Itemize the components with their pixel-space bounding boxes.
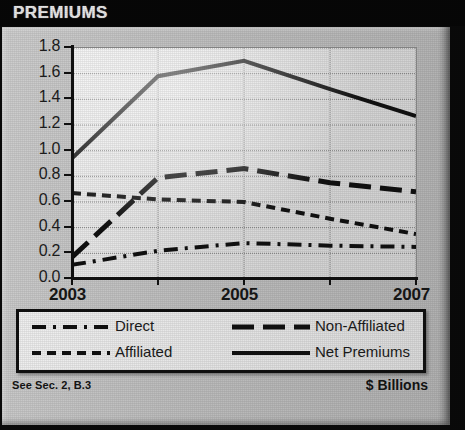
panel-shadow [438, 27, 450, 425]
legend-label: Direct [115, 317, 154, 334]
x-axis-tick [157, 278, 159, 285]
x-axis-label: 2007 [393, 285, 430, 305]
y-axis-tick [64, 174, 72, 176]
y-axis-label: 1.8 [14, 37, 60, 55]
y-axis-label: 1.6 [14, 63, 60, 81]
y-axis-tick [64, 251, 72, 253]
y-axis-label: 0.4 [14, 217, 60, 235]
y-axis-label: 0.0 [14, 268, 60, 286]
legend-label: Net Premiums [315, 343, 410, 360]
series-line-net-premiums [72, 61, 416, 159]
y-axis-label: 0.6 [14, 191, 60, 209]
legend: DirectNon-AffiliatedAffiliatedNet Premiu… [16, 309, 426, 373]
chart-screenshot: PREMIUMS 0.00.20.40.60.81.01.21.41.61.82… [0, 0, 465, 430]
y-axis-tick [64, 97, 72, 99]
x-axis-tick [329, 278, 331, 285]
chart-panel: 0.00.20.40.60.81.01.21.41.61.82003200520… [2, 27, 450, 425]
x-axis-tick [415, 278, 417, 285]
y-axis-tick [64, 46, 72, 48]
y-axis-tick [64, 226, 72, 228]
y-axis-label: 1.0 [14, 140, 60, 158]
legend-swatch-non-affiliated [231, 323, 311, 331]
y-axis-label: 1.2 [14, 114, 60, 132]
x-axis-tick [71, 278, 73, 285]
plot-area [72, 47, 417, 279]
legend-swatch-affiliated [31, 349, 111, 357]
x-axis-label: 2003 [49, 285, 86, 305]
title-bar: PREMIUMS [0, 0, 465, 26]
y-axis-label: 0.2 [14, 242, 60, 260]
chart-canvas [72, 48, 416, 279]
y-axis-line [71, 45, 74, 280]
plot-frame: 0.00.20.40.60.81.01.21.41.61.82003200520… [14, 39, 430, 301]
y-axis-tick [64, 149, 72, 151]
legend-label: Non-Affiliated [315, 317, 405, 334]
y-axis-label: 1.4 [14, 88, 60, 106]
x-axis-tick [243, 278, 245, 285]
legend-swatch-direct [31, 323, 111, 331]
y-axis-tick [64, 72, 72, 74]
legend-swatch-net-premiums [231, 349, 311, 357]
legend-label: Affiliated [115, 343, 172, 360]
y-axis-tick [64, 200, 72, 202]
x-axis-label: 2005 [221, 285, 258, 305]
footer-units: $ Billions [366, 377, 428, 393]
y-axis-label: 0.8 [14, 165, 60, 183]
footer-note: See Sec. 2, B.3 [12, 379, 91, 391]
y-axis-tick [64, 123, 72, 125]
page-title: PREMIUMS [13, 3, 108, 23]
